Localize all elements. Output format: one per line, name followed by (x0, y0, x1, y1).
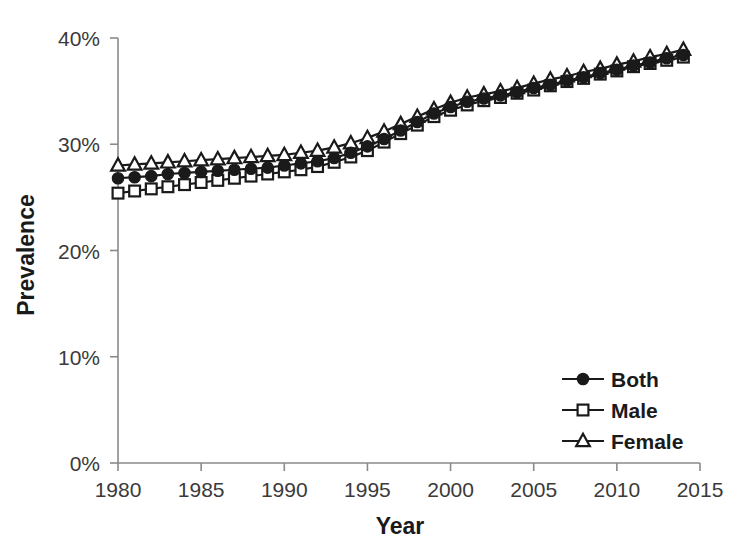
marker-filled-circle (412, 116, 423, 127)
marker-filled-circle (279, 160, 290, 171)
marker-open-square (162, 181, 173, 192)
marker-filled-circle (162, 168, 173, 179)
marker-filled-circle (112, 173, 123, 184)
x-axis-title: Year (376, 513, 425, 539)
marker-open-square (578, 405, 589, 416)
chart-background (0, 0, 753, 554)
marker-filled-circle (478, 93, 489, 104)
legend-label: Female (611, 430, 683, 453)
marker-filled-circle (462, 96, 473, 107)
marker-filled-circle (129, 172, 140, 183)
marker-filled-circle (395, 125, 406, 136)
marker-filled-circle (595, 67, 606, 78)
y-tick-label: 30% (58, 133, 100, 156)
marker-filled-circle (329, 152, 340, 163)
x-tick-label: 1995 (344, 478, 391, 501)
marker-filled-circle (428, 108, 439, 119)
marker-open-square (179, 179, 190, 190)
marker-filled-circle (212, 165, 223, 176)
marker-filled-circle (295, 158, 306, 169)
x-tick-label: 2005 (510, 478, 557, 501)
marker-filled-circle (661, 53, 672, 64)
legend-label: Both (611, 368, 659, 391)
x-tick-label: 2000 (427, 478, 474, 501)
marker-open-square (113, 188, 124, 199)
y-tick-label: 10% (58, 346, 100, 369)
x-tick-label: 1990 (261, 478, 308, 501)
x-tick-label: 1980 (95, 478, 142, 501)
marker-filled-circle (495, 90, 506, 101)
marker-filled-circle (378, 133, 389, 144)
marker-filled-circle (312, 156, 323, 167)
marker-filled-circle (678, 49, 689, 60)
y-tick-label: 40% (58, 27, 100, 50)
marker-filled-circle (229, 164, 240, 175)
y-tick-label: 0% (70, 452, 100, 475)
marker-open-square (196, 177, 207, 188)
marker-filled-circle (179, 167, 190, 178)
marker-filled-circle (445, 101, 456, 112)
marker-filled-circle (545, 79, 556, 90)
marker-filled-circle (511, 87, 522, 98)
marker-filled-circle (345, 147, 356, 158)
marker-filled-circle (146, 171, 157, 182)
marker-filled-circle (245, 163, 256, 174)
chart-container: 0%10%20%30%40% 1980198519901995200020052… (0, 0, 753, 554)
x-tick-label: 2015 (677, 478, 724, 501)
legend-label: Male (611, 399, 658, 422)
marker-filled-circle (262, 162, 273, 173)
marker-filled-circle (362, 141, 373, 152)
marker-open-square (129, 186, 140, 197)
y-tick-label: 20% (58, 240, 100, 263)
marker-filled-circle (561, 75, 572, 86)
x-tick-label: 1985 (178, 478, 225, 501)
marker-filled-circle (577, 373, 588, 384)
marker-filled-circle (611, 64, 622, 75)
prevalence-line-chart: 0%10%20%30%40% 1980198519901995200020052… (0, 0, 753, 554)
marker-open-square (146, 183, 157, 194)
marker-filled-circle (196, 166, 207, 177)
marker-filled-circle (528, 82, 539, 93)
y-axis-title: Prevalence (13, 194, 39, 315)
marker-filled-circle (645, 57, 656, 68)
marker-filled-circle (628, 60, 639, 71)
marker-filled-circle (578, 72, 589, 83)
x-tick-label: 2010 (593, 478, 640, 501)
